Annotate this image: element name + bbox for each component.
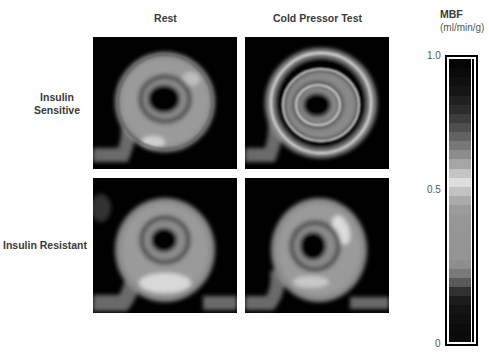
row-label-line2: Sensitive bbox=[22, 104, 92, 117]
colorbar-unit: (ml/min/g) bbox=[440, 22, 484, 33]
panel-sensitive-cold-pressor bbox=[245, 37, 389, 169]
column-title-rest: Rest bbox=[93, 12, 238, 24]
column-title-cold-pressor: Cold Pressor Test bbox=[245, 12, 390, 24]
colorbar-tick-mid: 0.5 bbox=[427, 184, 441, 195]
colorbar-edge bbox=[472, 59, 474, 342]
row-label-line1: Insulin bbox=[22, 91, 92, 104]
panel-resistant-rest bbox=[93, 178, 237, 313]
colorbar-tick-min: 0 bbox=[435, 338, 441, 349]
colorbar-tick-max: 1.0 bbox=[427, 50, 441, 61]
row-label-insulin-resistant: Insulin Resistant bbox=[0, 239, 90, 252]
colorbar bbox=[445, 55, 478, 346]
colorbar-gradient bbox=[449, 59, 471, 342]
row-label-insulin-sensitive: Insulin Sensitive bbox=[22, 91, 92, 117]
panel-sensitive-rest bbox=[93, 37, 237, 169]
colorbar-title: MBF bbox=[440, 8, 463, 20]
panel-resistant-cold-pressor bbox=[245, 178, 389, 313]
